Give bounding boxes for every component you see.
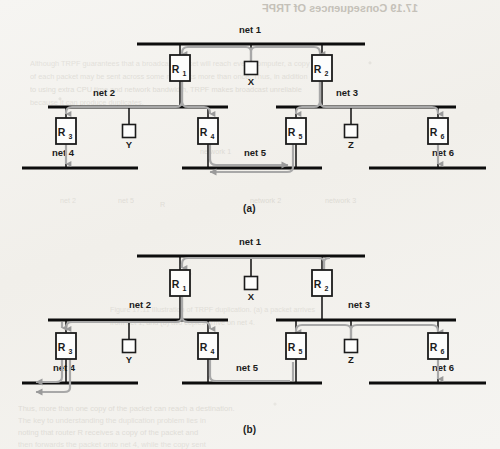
trace-R1-net2-to-R4 (182, 296, 210, 329)
host-label: Z (348, 139, 354, 150)
router-R5: R5 (286, 333, 306, 359)
panel-b: net 1net 2net 3net 4net 5net 6XYZR1R2R3R… (22, 236, 486, 392)
network-label: net 3 (348, 299, 370, 310)
network-net-6: net 6 (369, 362, 486, 383)
router-subscript: 3 (69, 348, 73, 355)
router-label: R (200, 341, 208, 353)
trace-net3-to-R6 (351, 325, 438, 340)
router-label: R (288, 126, 296, 138)
router-subscript: 6 (441, 133, 445, 140)
router-R3: R3 (56, 333, 76, 359)
network-net-2: net 2 (48, 299, 228, 320)
router-label: R (172, 278, 180, 290)
host-Y: Y (123, 340, 136, 366)
host-box (245, 277, 258, 290)
router-R4: R4 (198, 118, 218, 144)
network-diagram: net 1net 2net 3net 4net 5net 6XYZR1R2R3R… (0, 0, 500, 449)
router-label: R (58, 341, 66, 353)
trace-R1-net2-to-R3 (66, 81, 182, 114)
network-label: net 4 (53, 362, 76, 373)
host-label: Y (126, 139, 133, 150)
network-net-4: net 4 (22, 362, 138, 383)
router-label: R (314, 63, 322, 75)
router-label: R (172, 63, 180, 75)
host-Z: Z (345, 125, 358, 151)
router-label: R (58, 126, 66, 138)
router-subscript: 6 (441, 348, 445, 355)
host-box (345, 125, 358, 138)
router-label: R (430, 341, 438, 353)
router-label: R (200, 126, 208, 138)
network-label: net 6 (432, 147, 454, 158)
host-box (123, 340, 136, 353)
panel-a-caption: (a) (243, 203, 256, 214)
network-label: net 2 (93, 87, 115, 98)
host-label: X (248, 291, 255, 302)
network-label: net 5 (244, 147, 267, 158)
router-subscript: 4 (211, 348, 215, 355)
host-Z: Z (345, 340, 358, 366)
router-R4: R4 (198, 333, 218, 359)
network-net-4: net 4 (22, 147, 138, 168)
router-R2: R2 (312, 270, 332, 296)
network-label: net 2 (129, 299, 151, 310)
host-label: X (248, 76, 255, 87)
router-subscript: 5 (299, 348, 303, 355)
trace-R1-net2-to-R3 (66, 296, 182, 329)
router-label: R (314, 278, 322, 290)
router-label: R (288, 341, 296, 353)
network-label: net 1 (239, 236, 262, 247)
router-R2: R2 (312, 55, 332, 81)
network-label: net 5 (236, 362, 259, 373)
network-label: net 6 (432, 362, 454, 373)
network-net-2: net 2 (48, 87, 228, 107)
router-subscript: 3 (69, 133, 73, 140)
network-net-3: net 3 (276, 87, 456, 107)
host-X: X (245, 62, 258, 88)
panel-b-caption: (b) (243, 424, 256, 435)
router-subscript: 5 (299, 133, 303, 140)
router-R3: R3 (56, 118, 76, 144)
host-label: Y (126, 354, 133, 365)
host-box (245, 62, 258, 75)
network-net-6: net 6 (369, 147, 486, 168)
router-R6: R6 (428, 333, 448, 359)
host-X: X (245, 277, 258, 303)
network-net-1: net 1 (137, 24, 365, 44)
network-label: net 4 (52, 147, 75, 158)
trace-net1-to-R1 (182, 47, 251, 62)
router-R6: R6 (428, 118, 448, 144)
network-net-3: net 3 (276, 299, 456, 320)
network-net-5: net 5 (182, 362, 322, 383)
host-box (345, 340, 358, 353)
router-subscript: 1 (183, 70, 187, 77)
trace-R2-net3-to-R5 (296, 81, 320, 114)
router-R1: R1 (170, 55, 190, 81)
network-label: net 3 (336, 87, 358, 98)
router-subscript: 1 (183, 285, 187, 292)
router-R5: R5 (286, 118, 306, 144)
router-subscript: 2 (325, 70, 329, 77)
network-label: net 1 (239, 24, 262, 35)
trace-R1-net2-to-R4 (182, 81, 210, 114)
panel-a: net 1net 2net 3net 4net 5net 6XYZR1R2R3R… (22, 24, 486, 172)
router-subscript: 2 (325, 285, 329, 292)
trace-net1-to-R2 (251, 47, 320, 62)
network-net-1: net 1 (137, 236, 365, 256)
host-box (123, 125, 136, 138)
router-subscript: 4 (211, 133, 215, 140)
host-Y: Y (123, 125, 136, 151)
router-label: R (430, 126, 438, 138)
host-label: Z (348, 354, 354, 365)
router-R1: R1 (170, 270, 190, 296)
